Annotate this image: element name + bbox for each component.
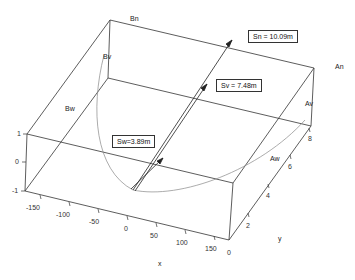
x-axis-label: x: [158, 260, 162, 267]
label-bv: Bv: [103, 53, 111, 60]
y-axis-label: y: [278, 235, 282, 242]
annotation-sn: Sn = 10.09m: [248, 30, 298, 43]
label-aw: Aw: [270, 155, 280, 162]
3d-plot-canvas: [0, 0, 355, 280]
y-axis-ticks: [248, 128, 310, 217]
bounding-box: [25, 20, 314, 240]
z-tick-0: 1: [17, 130, 21, 137]
x-tick-2: -50: [89, 218, 99, 225]
z-tick-2: -1: [12, 187, 18, 194]
label-an: An: [335, 63, 344, 70]
x-tick-4: 50: [150, 232, 158, 239]
vector-arrows: [131, 40, 232, 191]
x-tick-5: 100: [176, 239, 188, 246]
x-tick-3: 0: [124, 225, 128, 232]
label-bn: Bn: [130, 15, 139, 22]
label-bw: Bw: [65, 105, 75, 112]
z-tick-1: 0: [15, 158, 19, 165]
y-tick-0: 0: [227, 249, 231, 256]
x-tick-0: -150: [26, 204, 40, 211]
label-av: Av: [305, 100, 313, 107]
y-tick-1: 2: [246, 222, 250, 229]
annotation-sw: Sw=3.89m: [112, 135, 155, 148]
trajectory-curve: [97, 55, 305, 192]
y-tick-2: 4: [266, 192, 270, 199]
annotation-sv: Sv = 7.48m: [216, 79, 262, 92]
x-tick-6: 150: [205, 245, 217, 252]
y-tick-3: 6: [288, 163, 292, 170]
y-tick-4: 8: [308, 135, 312, 142]
x-tick-1: -100: [56, 211, 70, 218]
